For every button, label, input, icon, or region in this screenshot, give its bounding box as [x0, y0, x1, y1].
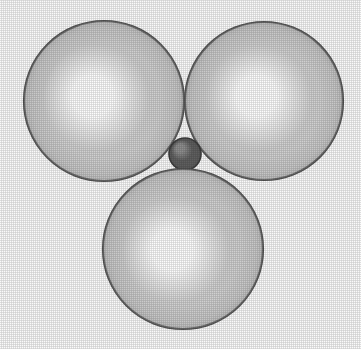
small-sphere-center — [169, 138, 201, 170]
sphere-packing-diagram — [0, 0, 361, 349]
figure-root: Space-filling sphere packing diagram Thr… — [0, 0, 361, 349]
large-sphere-bottom-rim-shading — [103, 169, 263, 329]
large-sphere-bottom — [103, 169, 263, 329]
large-sphere-top-right-rim-shading — [185, 22, 343, 180]
large-sphere-top-left-rim-shading — [24, 21, 184, 181]
large-sphere-top-right — [185, 22, 343, 180]
small-sphere-center-rim-shading — [169, 138, 201, 170]
large-sphere-top-left — [24, 21, 184, 181]
